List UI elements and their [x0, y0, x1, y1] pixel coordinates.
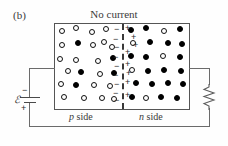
depletion-minus-sign: − [114, 25, 119, 34]
wire-right-resistor-to-top [209, 68, 210, 85]
emf-label: ℰ [14, 94, 20, 105]
battery-negative-sign: − [22, 85, 27, 95]
junction-dashed-line [122, 24, 124, 109]
figure-title: No current [0, 9, 228, 20]
depletion-minus-sign: − [114, 96, 119, 105]
n-side-text: side [144, 111, 163, 122]
label-n-side: n side [139, 112, 163, 122]
depletion-minus-sign: − [114, 43, 119, 52]
wire-top-right [189, 68, 210, 69]
resistor-icon [202, 84, 216, 110]
p-side-text: side [74, 111, 93, 122]
wire-bottom [29, 126, 210, 127]
depletion-plus-sign: + [125, 78, 130, 87]
depletion-plus-sign: + [125, 91, 130, 100]
depletion-plus-sign: + [133, 41, 138, 50]
figure-container: (b) No current −−−−−−−−−++++++++ p side … [0, 0, 228, 146]
label-p-side: p side [69, 112, 93, 122]
battery-long-plate [20, 97, 40, 98]
wire-top-left [29, 68, 55, 69]
battery-positive-sign: + [21, 103, 26, 113]
depletion-plus-sign: + [125, 24, 130, 33]
depletion-plus-sign: + [125, 48, 130, 57]
wire-right-bottom-to-resistor [209, 108, 210, 127]
